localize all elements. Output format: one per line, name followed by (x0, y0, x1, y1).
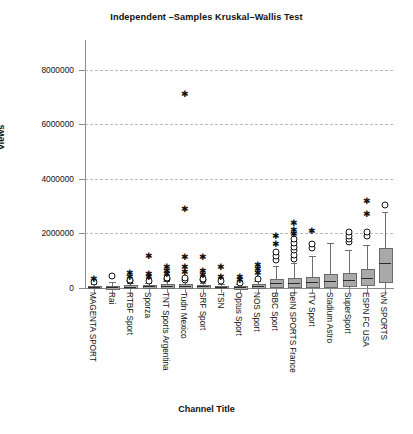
outlier-circle-marker (309, 240, 316, 247)
median-line (270, 283, 282, 284)
median-line (324, 281, 336, 282)
extreme-outlier-star-marker: ✱ (126, 268, 134, 277)
y-tick-label: 6000000 (4, 119, 74, 129)
whisker-cap-upper (327, 243, 334, 244)
median-line (215, 287, 227, 288)
chart-title: Independent –Samples Kruskal–Wallis Test (0, 12, 413, 22)
median-line (379, 263, 391, 264)
extreme-outlier-star-marker: ✱ (181, 90, 189, 99)
extreme-outlier-star-marker: ✱ (181, 204, 189, 213)
whisker-upper (294, 263, 295, 277)
x-tick-label: RTBF Sport (125, 292, 134, 335)
x-tick-label: TNT Sports Argentina (161, 292, 170, 371)
x-tick-label: MAGENTA SPORT (88, 292, 97, 362)
y-tick-label: 4000000 (4, 174, 74, 184)
extreme-outlier-star-marker: ✱ (254, 261, 262, 270)
gridline (85, 70, 393, 71)
x-tick-label: beIN SPORTS France (288, 292, 297, 373)
extreme-outlier-star-marker: ✱ (181, 263, 189, 272)
extreme-outlier-star-marker: ✱ (145, 270, 153, 279)
extreme-outlier-star-marker: ✱ (272, 232, 280, 241)
extreme-outlier-star-marker: ✱ (145, 251, 153, 260)
y-tick-label: 0 (4, 283, 74, 293)
y-axis-line (85, 40, 86, 288)
median-line (361, 278, 373, 279)
extreme-outlier-star-marker: ✱ (217, 262, 225, 271)
outlier-circle-marker (272, 248, 279, 255)
extreme-outlier-star-marker: ✱ (163, 263, 171, 272)
x-tick-label: NOS Sport (252, 292, 261, 332)
median-line (161, 286, 173, 287)
median-line (179, 286, 191, 287)
median-line (288, 283, 300, 284)
whisker-upper (276, 266, 277, 279)
x-tick-label: TSN (216, 292, 225, 308)
median-line (106, 287, 118, 288)
box-iqr (379, 248, 393, 283)
x-tick-label: ITV Sport (307, 292, 316, 327)
whisker-upper (349, 250, 350, 272)
whisker-cap-upper (345, 250, 352, 251)
whisker-cap-upper (363, 245, 370, 246)
median-line (234, 287, 246, 288)
median-line (252, 286, 264, 287)
median-line (124, 287, 136, 288)
whisker-upper (385, 212, 386, 248)
x-tick-label: BBC Sport (270, 292, 279, 331)
extreme-outlier-star-marker: ✱ (181, 253, 189, 262)
x-axis-title: Channel Title (0, 404, 413, 414)
whisker-cap-upper (291, 263, 298, 264)
whisker-cap-upper (382, 212, 389, 213)
x-tick-label: Optus Sport (234, 292, 243, 336)
extreme-outlier-star-marker: ✱ (363, 197, 371, 206)
outlier-circle-marker (381, 202, 388, 209)
median-line (143, 286, 155, 287)
chart-root: Independent –Samples Kruskal–Wallis Test… (0, 0, 413, 434)
median-line (88, 287, 100, 288)
median-line (197, 286, 209, 287)
x-tick-label: tvN SPORTS (379, 292, 388, 340)
y-tick-label: 2000000 (4, 228, 74, 238)
extreme-outlier-star-marker: ✱ (217, 272, 225, 281)
gridline (85, 124, 393, 125)
whisker-upper (330, 243, 331, 274)
x-tick-label: Sporza (143, 292, 152, 318)
x-tick-label: ESPN FC USA (361, 292, 370, 347)
x-tick-label: SRF Sport (198, 292, 207, 330)
extreme-outlier-star-marker: ✱ (290, 219, 298, 228)
whisker-upper (312, 256, 313, 277)
x-tick-label: SuperSport (343, 292, 352, 333)
extreme-outlier-star-marker: ✱ (199, 252, 207, 261)
whisker-upper (367, 245, 368, 269)
whisker-cap-upper (309, 256, 316, 257)
gridline (85, 179, 393, 180)
whisker-cap-upper (109, 282, 116, 283)
median-line (306, 282, 318, 283)
x-tick-label: Rai (107, 292, 116, 304)
x-tick-label: Stadium Astro (325, 292, 334, 343)
outlier-circle-marker (363, 229, 370, 236)
extreme-outlier-star-marker: ✱ (308, 226, 316, 235)
extreme-outlier-star-marker: ✱ (199, 267, 207, 276)
whisker-cap-upper (273, 266, 280, 267)
x-tick-label: Tudn Mexico (179, 292, 188, 339)
extreme-outlier-star-marker: ✱ (90, 274, 98, 283)
outlier-circle-marker (345, 228, 352, 235)
outlier-circle-marker (109, 273, 116, 280)
extreme-outlier-star-marker: ✱ (236, 272, 244, 281)
y-tick-label: 8000000 (4, 65, 74, 75)
extreme-outlier-star-marker: ✱ (363, 209, 371, 218)
median-line (343, 280, 355, 281)
y-tick-mark (79, 288, 85, 289)
